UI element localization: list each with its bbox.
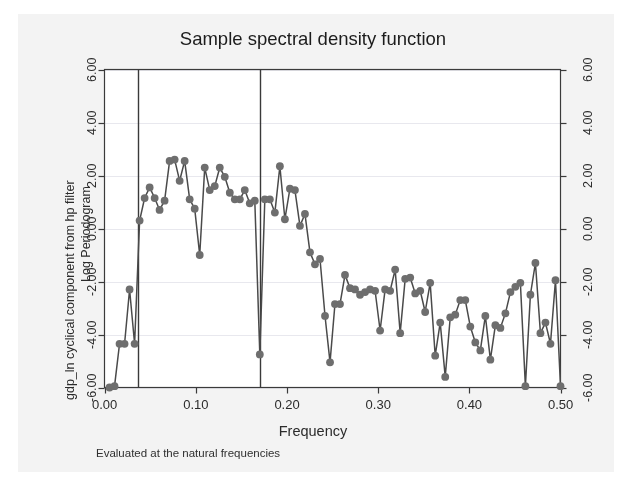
- y-tick-label-right: 0.00: [582, 216, 595, 240]
- figure-container: Sample spectral density function Frequen…: [0, 0, 626, 486]
- y-tick-label-right: -6.00: [582, 374, 595, 403]
- x-tick-label: 0.20: [274, 398, 299, 411]
- x-tick-label: 0.40: [457, 398, 482, 411]
- y-tick-label-right: 2.00: [582, 163, 595, 187]
- y-tick-label-right: 4.00: [582, 110, 595, 134]
- x-tick-label: 0.30: [366, 398, 391, 411]
- y-tick-label-left: 2.00: [86, 163, 99, 187]
- y-tick-label-right: -2.00: [582, 268, 595, 297]
- x-tick-label: 0.50: [548, 398, 573, 411]
- chart-footnote: Evaluated at the natural frequencies: [96, 448, 280, 460]
- y-tick-label-right: 6.00: [582, 57, 595, 81]
- x-tick-label: 0.10: [183, 398, 208, 411]
- y-tick-label-right: -4.00: [582, 321, 595, 350]
- y-tick-label-left: -2.00: [86, 268, 99, 297]
- y-axis-title-outer: gdp_ln cyclical component from hp filter: [64, 180, 77, 400]
- y-tick-label-left: -4.00: [86, 321, 99, 350]
- y-tick-label-left: 0.00: [86, 216, 99, 240]
- page-title: Sample spectral density function: [0, 30, 626, 49]
- x-axis-title: Frequency: [0, 424, 626, 439]
- y-tick-label-left: 4.00: [86, 110, 99, 134]
- x-tick-label: 0.00: [92, 398, 117, 411]
- y-tick-label-left: 6.00: [86, 57, 99, 81]
